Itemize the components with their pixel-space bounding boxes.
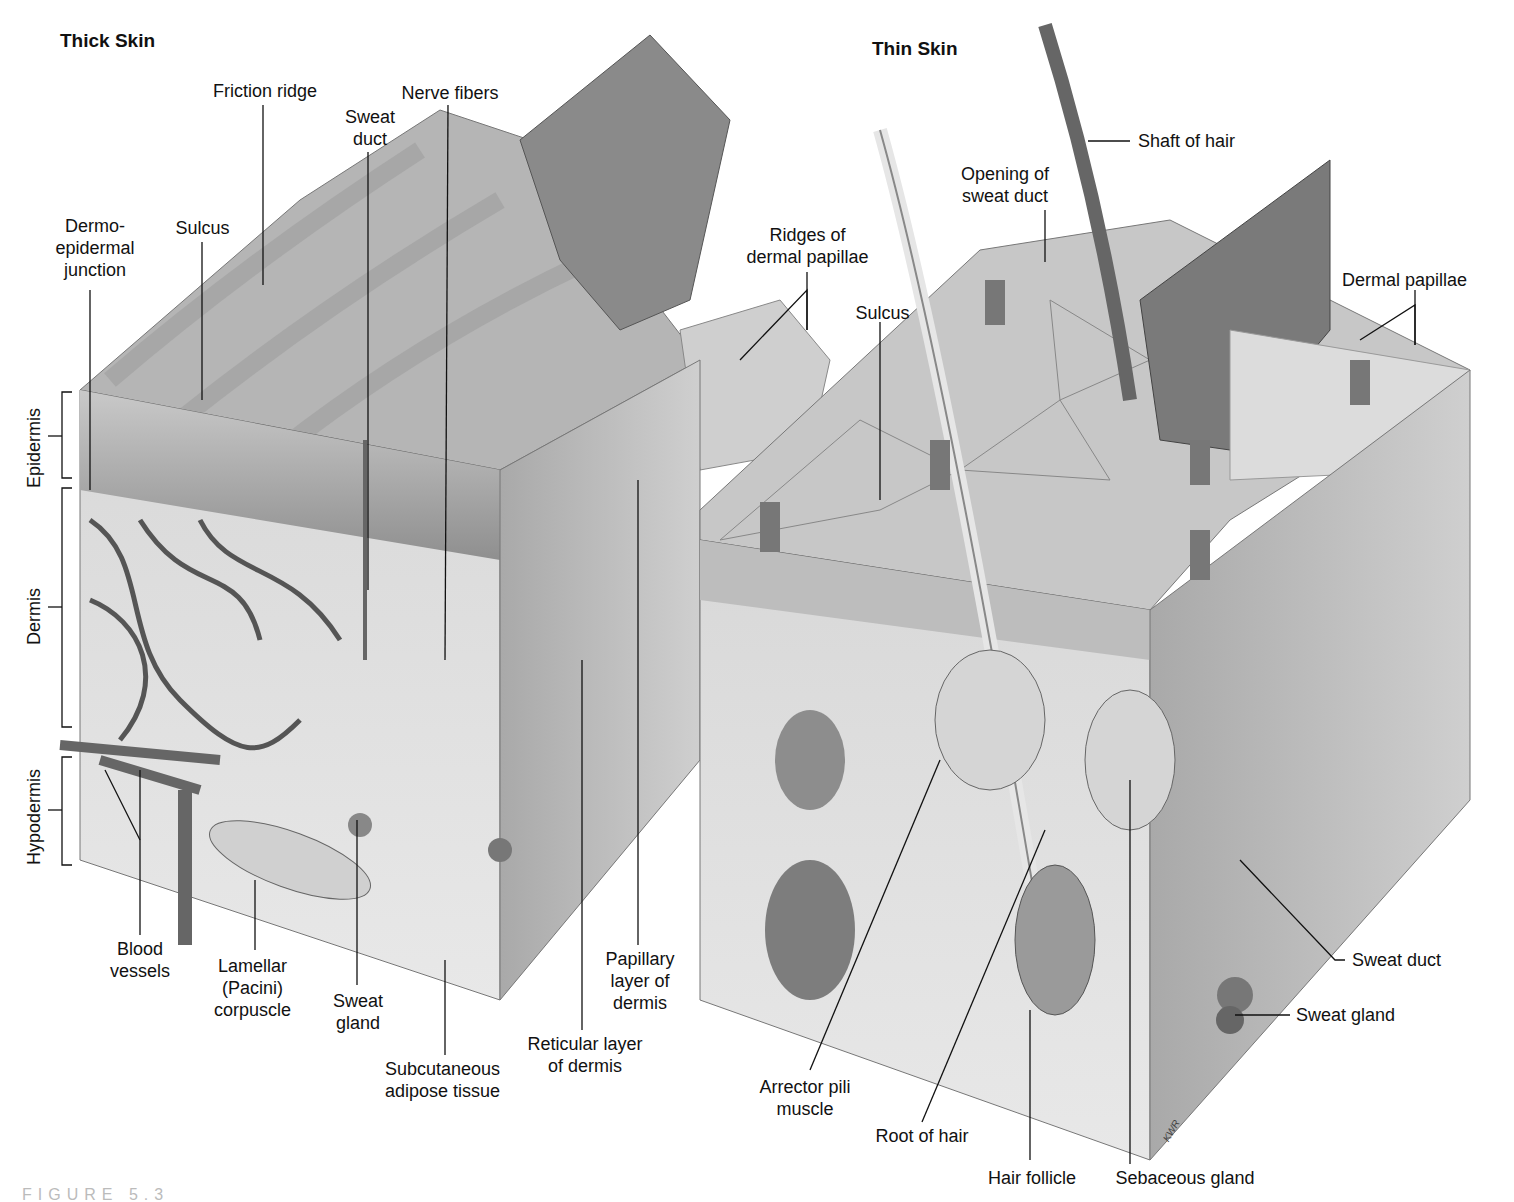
- label-arrector-pili-muscle: Arrector pili muscle: [740, 1076, 870, 1120]
- label-dermal-papillae: Dermal papillae: [1342, 269, 1467, 291]
- label-papillary-layer: Papillary layer of dermis: [590, 948, 690, 1014]
- label-reticular-layer: Reticular layer of dermis: [515, 1033, 655, 1077]
- label-sulcus-thick: Sulcus: [160, 217, 245, 239]
- skin-illustration: [0, 0, 1514, 1202]
- label-sweat-duct-thick: Sweat duct: [325, 106, 415, 150]
- label-lamellar-corpuscle: Lamellar (Pacini) corpuscle: [200, 955, 305, 1021]
- figure-caption-fragment: FIGURE 5.3: [22, 1186, 169, 1202]
- epidermis-bracket-label: Epidermis: [24, 408, 45, 488]
- label-sweat-duct-thin: Sweat duct: [1352, 949, 1441, 971]
- label-opening-sweat-duct: Opening of sweat duct: [945, 163, 1065, 207]
- label-dermo-epidermal-junction: Dermo- epidermal junction: [40, 215, 150, 281]
- label-friction-ridge: Friction ridge: [195, 80, 335, 102]
- label-nerve-fibers: Nerve fibers: [390, 82, 510, 104]
- label-hair-follicle: Hair follicle: [972, 1167, 1092, 1189]
- label-sulcus-thin: Sulcus: [840, 302, 925, 324]
- label-sweat-gland-thick: Sweat gland: [318, 990, 398, 1034]
- label-ridges-dermal-papillae: Ridges of dermal papillae: [735, 224, 880, 268]
- label-root-of-hair: Root of hair: [862, 1125, 982, 1147]
- label-sweat-gland-thin: Sweat gland: [1296, 1004, 1395, 1026]
- thick-skin-title: Thick Skin: [60, 30, 155, 52]
- thin-skin-title: Thin Skin: [872, 38, 958, 60]
- label-sebaceous-gland: Sebaceous gland: [1110, 1167, 1260, 1189]
- thin-skin-block: [700, 25, 1470, 1160]
- label-blood-vessels: Blood vessels: [95, 938, 185, 982]
- hypodermis-bracket-label: Hypodermis: [24, 769, 45, 865]
- label-shaft-of-hair: Shaft of hair: [1138, 130, 1235, 152]
- dermis-bracket-label: Dermis: [24, 588, 45, 645]
- label-subcutaneous-adipose: Subcutaneous adipose tissue: [370, 1058, 515, 1102]
- skin-diagram: Thick Skin Epidermis Dermis Hypodermis F…: [0, 0, 1514, 1202]
